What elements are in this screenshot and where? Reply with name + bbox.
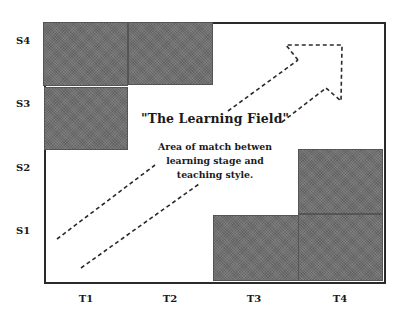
description-line-3: teaching style.: [140, 168, 290, 182]
description-line-1: Area of match betwen: [140, 140, 290, 154]
learning-field-diagram: S4 S3 S2 S1 T1 T2 T3 T4 "The Learning Fi…: [0, 0, 402, 321]
description-line-2: learning stage and: [140, 154, 290, 168]
diagram-title: "The Learning Field": [140, 111, 290, 126]
diagram-description: Area of match betwen learning stage and …: [140, 140, 290, 182]
